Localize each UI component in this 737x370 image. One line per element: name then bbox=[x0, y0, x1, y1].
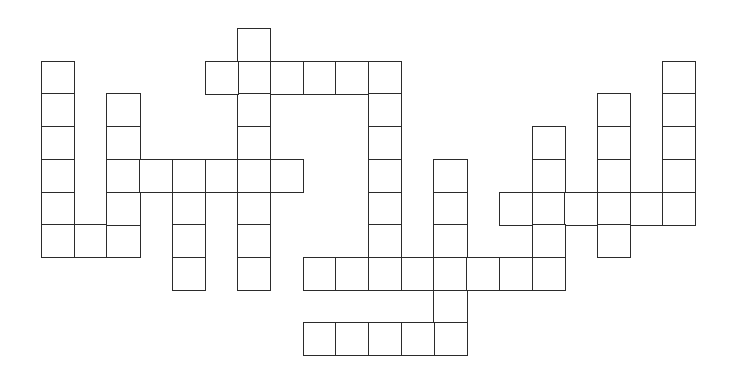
crossword-cell[interactable] bbox=[368, 126, 402, 160]
crossword-cell[interactable] bbox=[532, 257, 566, 291]
crossword-cell[interactable] bbox=[303, 322, 337, 356]
crossword-cell[interactable] bbox=[303, 61, 337, 95]
crossword-cell[interactable] bbox=[597, 224, 631, 258]
crossword-cell[interactable] bbox=[237, 61, 271, 95]
crossword-cell[interactable] bbox=[662, 126, 696, 160]
crossword-cell[interactable] bbox=[597, 159, 631, 193]
crossword-cell[interactable] bbox=[433, 290, 467, 324]
crossword-cell[interactable] bbox=[368, 192, 402, 226]
crossword-cell[interactable] bbox=[172, 224, 206, 258]
crossword-cell[interactable] bbox=[41, 159, 75, 193]
crossword-cell[interactable] bbox=[368, 224, 402, 258]
crossword-cell[interactable] bbox=[106, 126, 140, 160]
crossword-cell[interactable] bbox=[205, 159, 239, 193]
crossword-cell[interactable] bbox=[172, 192, 206, 226]
crossword-cell[interactable] bbox=[401, 257, 435, 291]
crossword-cell[interactable] bbox=[597, 126, 631, 160]
crossword-cell[interactable] bbox=[106, 93, 140, 127]
crossword-cell[interactable] bbox=[597, 192, 631, 226]
crossword-cell[interactable] bbox=[368, 257, 402, 291]
crossword-cell[interactable] bbox=[139, 159, 173, 193]
crossword-cell[interactable] bbox=[368, 159, 402, 193]
crossword-cell[interactable] bbox=[237, 126, 271, 160]
crossword-cell[interactable] bbox=[106, 192, 140, 226]
crossword-cell[interactable] bbox=[564, 192, 598, 226]
crossword-cell[interactable] bbox=[41, 224, 75, 258]
crossword-cell[interactable] bbox=[662, 192, 696, 226]
crossword-cell[interactable] bbox=[433, 257, 467, 291]
crossword-cell[interactable] bbox=[205, 61, 239, 95]
crossword-cell[interactable] bbox=[106, 159, 140, 193]
crossword-cell[interactable] bbox=[662, 61, 696, 95]
crossword-cell[interactable] bbox=[433, 159, 467, 193]
crossword-cell[interactable] bbox=[532, 126, 566, 160]
crossword-cell[interactable] bbox=[662, 93, 696, 127]
crossword-cell[interactable] bbox=[597, 93, 631, 127]
crossword-cell[interactable] bbox=[41, 61, 75, 95]
crossword-cell[interactable] bbox=[270, 61, 304, 95]
crossword-cell[interactable] bbox=[499, 192, 533, 226]
crossword-cell[interactable] bbox=[368, 93, 402, 127]
crossword-cell[interactable] bbox=[237, 93, 271, 127]
crossword-cell[interactable] bbox=[662, 159, 696, 193]
crossword-cell[interactable] bbox=[106, 224, 140, 258]
crossword-cell[interactable] bbox=[532, 159, 566, 193]
crossword-cell[interactable] bbox=[41, 192, 75, 226]
crossword-cell[interactable] bbox=[172, 159, 206, 193]
crossword-cell[interactable] bbox=[401, 322, 435, 356]
crossword-cell[interactable] bbox=[41, 93, 75, 127]
crossword-cell[interactable] bbox=[74, 224, 108, 258]
crossword-cell[interactable] bbox=[237, 257, 271, 291]
crossword-cell[interactable] bbox=[499, 257, 533, 291]
crossword-cell[interactable] bbox=[433, 192, 467, 226]
crossword-cell[interactable] bbox=[237, 192, 271, 226]
crossword-cell[interactable] bbox=[303, 257, 337, 291]
crossword-cell[interactable] bbox=[532, 224, 566, 258]
crossword-cell[interactable] bbox=[433, 224, 467, 258]
crossword-cell[interactable] bbox=[368, 61, 402, 95]
crossword-cell[interactable] bbox=[335, 322, 369, 356]
crossword-cell[interactable] bbox=[335, 257, 369, 291]
crossword-cell[interactable] bbox=[237, 28, 271, 62]
crossword-cell[interactable] bbox=[630, 192, 664, 226]
crossword-cell[interactable] bbox=[466, 257, 500, 291]
crossword-cell[interactable] bbox=[433, 322, 467, 356]
crossword-grid bbox=[0, 0, 737, 370]
crossword-cell[interactable] bbox=[237, 224, 271, 258]
crossword-cell[interactable] bbox=[532, 192, 566, 226]
crossword-cell[interactable] bbox=[368, 322, 402, 356]
crossword-cell[interactable] bbox=[335, 61, 369, 95]
crossword-cell[interactable] bbox=[237, 159, 271, 193]
crossword-cell[interactable] bbox=[270, 159, 304, 193]
crossword-cell[interactable] bbox=[41, 126, 75, 160]
crossword-cell[interactable] bbox=[172, 257, 206, 291]
